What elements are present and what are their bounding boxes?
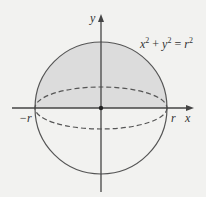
neg-r-label: −r — [19, 111, 32, 125]
y-axis-arrow-icon — [98, 14, 104, 22]
y-axis-label: y — [89, 11, 96, 25]
x-axis-label: x — [184, 111, 191, 125]
svg-text:x2 + y2 = r2: x2 + y2 = r2 — [139, 36, 193, 51]
sphere-diagram: y x −r r x2 + y2 = r2 — [0, 0, 206, 197]
circle-equation: x2 + y2 = r2 — [139, 36, 193, 51]
origin-dot — [99, 106, 103, 110]
pos-r-label: r — [171, 111, 176, 125]
